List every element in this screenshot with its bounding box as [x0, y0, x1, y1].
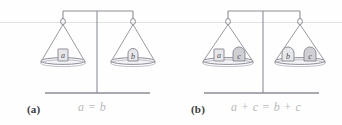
pivot-ring-left-b: [226, 19, 231, 25]
weight-a-label-b: a: [217, 51, 221, 60]
panel-equation-b: a + c = b + c: [231, 100, 301, 115]
panel-caption-a: (a): [27, 103, 40, 115]
pivot-ring-right-a: [131, 19, 136, 25]
weight-b-label: b: [131, 52, 135, 61]
panel-equation-a: a = b: [78, 100, 106, 115]
balance-scale-figure: a b (a) a = b: [0, 0, 342, 125]
figure-panel-b: a c b c (b) a + c = b + c: [171, 0, 342, 125]
figure-panel-a: a b (a) a = b: [0, 0, 171, 125]
pivot-ring-left-a: [61, 19, 66, 25]
weight-c-label-right: c: [308, 52, 312, 61]
weight-b-label-b: b: [286, 52, 290, 61]
weight-c-label-left: c: [237, 52, 241, 61]
weight-a-label: a: [61, 51, 65, 60]
pivot-ring-right-b: [298, 19, 303, 25]
panel-caption-b: (b): [191, 103, 205, 115]
